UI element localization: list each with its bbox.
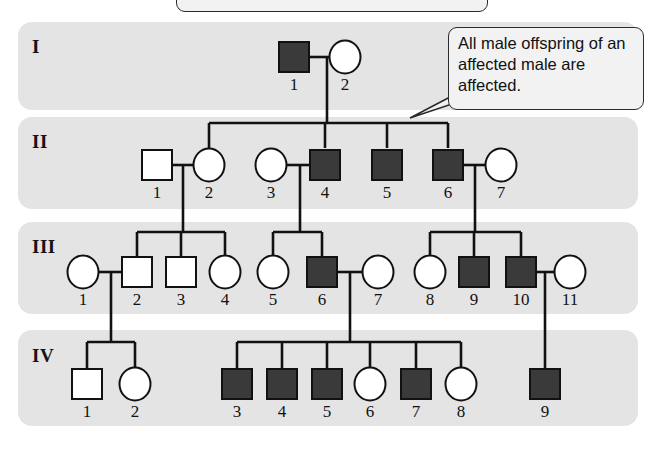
individual-symbol-III-4-female-unaffected[interactable] [210,256,241,289]
individual-symbol-II-3-female-unaffected[interactable] [256,149,287,182]
individual-symbol-I-2-female-unaffected[interactable] [330,41,361,74]
individual-symbol-II-2-female-unaffected[interactable] [194,149,225,182]
individual-symbol-III-7-female-unaffected[interactable] [363,256,394,289]
individual-symbol-III-9-male-affected[interactable] [459,257,489,287]
individual-number-III-11: 11 [557,290,583,310]
individual-number-IV-1: 1 [74,402,100,422]
individual-number-II-3: 3 [258,183,284,203]
individual-number-IV-4: 4 [269,402,295,422]
individual-symbol-III-2-male-unaffected[interactable] [122,257,152,287]
individual-number-II-6: 6 [435,183,461,203]
individual-symbol-IV-6-female-unaffected[interactable] [355,368,386,401]
individual-number-IV-6: 6 [357,402,383,422]
individual-number-II-5: 5 [374,183,400,203]
individual-number-III-8: 8 [417,290,443,310]
individual-symbol-IV-1-male-unaffected[interactable] [72,369,102,399]
individual-number-IV-8: 8 [448,402,474,422]
individual-symbol-IV-8-female-unaffected[interactable] [446,368,477,401]
individual-number-III-10: 10 [508,290,534,310]
individual-number-III-4: 4 [212,290,238,310]
individual-number-III-5: 5 [260,290,286,310]
individual-symbol-II-7-female-unaffected[interactable] [486,149,517,182]
individual-number-II-7: 7 [488,183,514,203]
individual-symbol-III-11-female-unaffected[interactable] [555,256,586,289]
individual-symbol-III-8-female-unaffected[interactable] [415,256,446,289]
individual-symbol-I-1-male-affected[interactable] [279,42,309,72]
individual-number-III-6: 6 [309,290,335,310]
callout-pointer [410,96,452,118]
individual-symbol-IV-2-female-unaffected[interactable] [120,368,151,401]
individual-number-III-9: 9 [461,290,487,310]
individual-symbol-II-6-male-affected[interactable] [433,150,463,180]
individual-symbol-III-6-male-affected[interactable] [307,257,337,287]
individual-number-II-2: 2 [196,183,222,203]
pedigree-figure: IIIIIIIV 1212345671234567891011123456789… [0,0,656,452]
individual-symbol-IV-7-male-affected[interactable] [401,369,431,399]
annotation-callout: All male offspring of an affected male a… [448,27,644,110]
individual-number-IV-9: 9 [532,402,558,422]
individual-number-I-1: 1 [281,75,307,95]
individual-number-II-1: 1 [144,183,170,203]
individual-symbol-IV-5-male-affected[interactable] [312,369,342,399]
individual-symbol-IV-9-male-affected[interactable] [530,369,560,399]
annotation-callout-text: All male offspring of an affected male a… [458,34,626,94]
individual-symbol-III-1-female-unaffected[interactable] [68,256,99,289]
individual-symbol-III-10-male-affected[interactable] [506,257,536,287]
individual-number-III-7: 7 [365,290,391,310]
individual-symbol-III-3-male-unaffected[interactable] [166,257,196,287]
individual-symbol-IV-3-male-affected[interactable] [222,369,252,399]
individual-number-III-3: 3 [168,290,194,310]
individual-number-IV-2: 2 [122,402,148,422]
individual-number-II-4: 4 [312,183,338,203]
individual-number-I-2: 2 [332,75,358,95]
individual-number-III-1: 1 [70,290,96,310]
individual-symbol-II-1-male-unaffected[interactable] [142,150,172,180]
individual-number-III-2: 2 [124,290,150,310]
individual-number-IV-3: 3 [224,402,250,422]
individual-symbol-II-5-male-affected[interactable] [372,150,402,180]
individual-symbol-II-4-male-affected[interactable] [310,150,340,180]
individual-symbol-III-5-female-unaffected[interactable] [258,256,289,289]
individual-number-IV-5: 5 [314,402,340,422]
individual-symbol-IV-4-male-affected[interactable] [267,369,297,399]
individual-number-IV-7: 7 [403,402,429,422]
